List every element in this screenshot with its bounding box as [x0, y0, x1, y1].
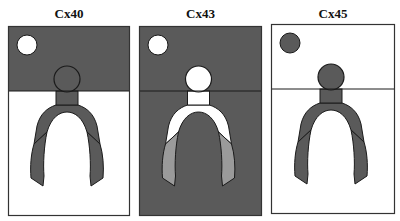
panel-cx43-diagram [139, 26, 262, 216]
stem [320, 89, 342, 103]
indicator-circle [148, 35, 168, 55]
stem [56, 91, 78, 105]
panel-cx45-diagram [271, 24, 395, 214]
head-circle [54, 66, 80, 92]
head-circle [318, 64, 344, 90]
head-circle [186, 66, 212, 92]
panel-title: Cx43 [139, 6, 262, 22]
indicator-circle [17, 35, 37, 55]
stem [188, 91, 210, 105]
panel-title: Cx45 [271, 6, 395, 22]
panel-cx40-diagram [8, 26, 130, 216]
indicator-circle [280, 33, 300, 53]
panel-title: Cx40 [8, 6, 130, 22]
